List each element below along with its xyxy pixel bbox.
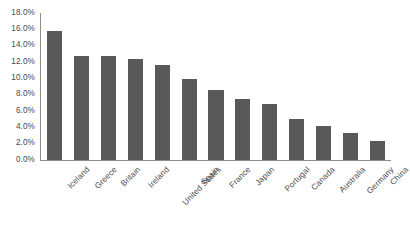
bar xyxy=(74,56,89,160)
bar xyxy=(343,133,358,160)
y-tick-label: 0.0% xyxy=(16,156,35,164)
y-tick-label: 8.0% xyxy=(16,90,35,98)
bar xyxy=(128,59,143,160)
x-tick-label: Britain xyxy=(119,165,142,188)
bar xyxy=(47,31,62,160)
y-tick-label: 14.0% xyxy=(11,41,35,49)
bar xyxy=(262,104,277,160)
x-tick-label: Ireland xyxy=(147,165,172,190)
bar xyxy=(208,90,223,160)
bar xyxy=(289,119,304,160)
bar xyxy=(101,56,116,160)
bar xyxy=(182,79,197,160)
bar xyxy=(235,99,250,160)
y-tick-label: 6.0% xyxy=(16,107,35,115)
y-tick-label: 18.0% xyxy=(11,9,35,17)
y-tick-label: 12.0% xyxy=(11,58,35,66)
x-tick-label: Japan xyxy=(254,165,276,187)
y-tick-label: 4.0% xyxy=(16,123,35,131)
x-tick-label: Iceland xyxy=(66,165,92,191)
y-tick-label: 10.0% xyxy=(11,74,35,82)
bar xyxy=(316,126,331,160)
x-tick-label: Greece xyxy=(93,165,119,191)
x-tick-label: Australia xyxy=(337,165,367,195)
x-tick-label: Portugal xyxy=(283,165,311,193)
x-axis-tick-labels: IcelandGreeceBritainIrelandUnited States… xyxy=(41,161,391,225)
y-axis-tick-labels: 0.0%2.0%4.0%6.0%8.0%10.0%12.0%14.0%16.0%… xyxy=(0,0,38,226)
y-tick-label: 2.0% xyxy=(16,139,35,147)
bar xyxy=(370,141,385,160)
plot-area xyxy=(41,13,391,160)
x-tick-label: Canada xyxy=(309,165,336,192)
x-tick-label: France xyxy=(228,165,253,190)
y-tick-label: 16.0% xyxy=(11,25,35,33)
bar xyxy=(155,65,170,160)
